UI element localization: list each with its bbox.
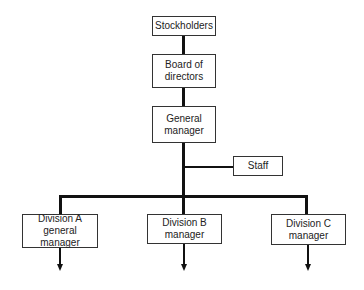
connector-board-gm: [182, 87, 185, 106]
node-general-manager: General manager: [152, 106, 216, 143]
arrow-shaft-division-b: [183, 243, 185, 264]
node-label: Stockholders: [155, 20, 213, 32]
node-label-line1: Division A: [38, 213, 82, 225]
arrow-down-icon: [305, 264, 311, 271]
node-label-line1: Division B: [162, 217, 206, 229]
node-label-line2: directors: [165, 71, 203, 83]
node-label: Staff: [248, 160, 268, 172]
node-division-b: Division B manager: [147, 214, 222, 244]
arrow-shaft-division-a: [59, 248, 61, 264]
node-label-line1: General: [166, 113, 202, 125]
connector-division-c: [305, 195, 308, 214]
node-staff: Staff: [233, 156, 283, 176]
division-bus: [59, 195, 307, 198]
node-label-line2: manager: [164, 125, 203, 137]
arrow-down-icon: [57, 264, 63, 271]
org-chart: Stockholders Board of directors General …: [0, 0, 364, 290]
node-stockholders: Stockholders: [152, 16, 216, 36]
arrow-shaft-division-c: [307, 244, 309, 264]
arrow-down-icon: [181, 264, 187, 271]
connector-staff: [182, 166, 233, 168]
node-label-line1: Board of: [165, 59, 203, 71]
node-label-line2: manager: [289, 230, 328, 242]
connector-stockholders-board: [182, 35, 185, 54]
node-board-of-directors: Board of directors: [152, 54, 216, 88]
node-label-line2: general manager: [23, 225, 97, 249]
node-label-line1: Division C: [286, 218, 331, 230]
node-label-line2: manager: [165, 229, 204, 241]
connector-gm-trunk: [182, 143, 185, 214]
connector-division-a: [59, 195, 62, 214]
node-division-a: Division A general manager: [22, 214, 98, 248]
node-division-c: Division C manager: [271, 214, 346, 245]
